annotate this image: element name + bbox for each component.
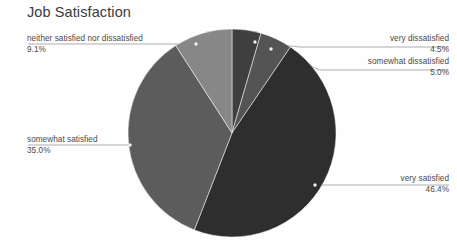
slice-label-very-satisfied-name: very satisfied (401, 173, 449, 184)
slice-label-very-satisfied-value: 46.4% (401, 184, 449, 195)
marker-very-dissatisfied-icon (253, 40, 256, 43)
slice-label-somewhat-dissatisfied: somewhat dissatisfied 5.0% (368, 56, 449, 78)
slice-label-neither-value: 9.1% (27, 44, 143, 55)
marker-somewhat-satisfied-icon (128, 143, 131, 146)
pie-slices (128, 29, 336, 237)
slice-label-very-dissatisfied-name: very dissatisfied (390, 33, 449, 44)
slice-label-neither: neither satisfied nor dissatisfied 9.1% (27, 33, 143, 55)
marker-very-satisfied-icon (313, 183, 316, 186)
slice-label-somewhat-satisfied-name: somewhat satisfied (27, 134, 98, 145)
slice-label-very-satisfied: very satisfied 46.4% (401, 173, 449, 195)
slice-label-somewhat-dissatisfied-name: somewhat dissatisfied (368, 56, 449, 67)
slice-label-somewhat-dissatisfied-value: 5.0% (368, 67, 449, 78)
marker-somewhat-dissatisfied-icon (269, 47, 272, 50)
slice-label-somewhat-satisfied-value: 35.0% (27, 145, 98, 156)
slice-label-very-dissatisfied-value: 4.5% (390, 44, 449, 55)
marker-neither-icon (194, 42, 197, 45)
slice-label-somewhat-satisfied: somewhat satisfied 35.0% (27, 134, 98, 156)
chart-canvas: Job Satisfaction neithe (0, 0, 457, 245)
slice-label-neither-name: neither satisfied nor dissatisfied (27, 33, 143, 44)
slice-label-very-dissatisfied: very dissatisfied 4.5% (390, 33, 449, 55)
